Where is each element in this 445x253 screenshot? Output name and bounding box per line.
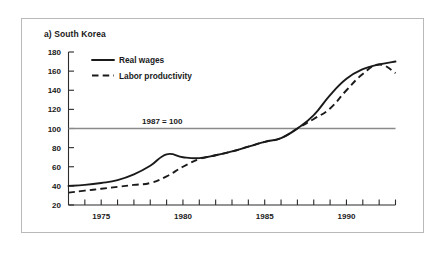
x-axis-tick-labels: 1975198019851990: [92, 212, 356, 221]
x-tick-label: 1985: [256, 212, 274, 221]
y-tick-label: 180: [48, 48, 62, 57]
reference-line-label: 1987 = 100: [142, 117, 183, 126]
y-tick-label: 80: [52, 144, 61, 153]
legend-label-real-wages: Real wages: [119, 55, 165, 65]
y-tick-label: 120: [48, 105, 62, 114]
chart-canvas: 18016014012010080604020 1975198019851990…: [0, 0, 445, 253]
x-tick-label: 1990: [338, 212, 356, 221]
y-axis-tick-labels: 18016014012010080604020: [48, 48, 62, 210]
legend: Real wages Labor productivity: [92, 55, 192, 81]
y-tick-label: 160: [48, 67, 62, 76]
y-tick-label: 140: [48, 86, 62, 95]
y-tick-label: 40: [52, 182, 61, 191]
y-tick-label: 60: [52, 163, 61, 172]
y-tick-label: 20: [52, 201, 61, 210]
x-tick-label: 1980: [174, 212, 192, 221]
series-real-wages: [69, 62, 396, 186]
x-tick-label: 1975: [92, 212, 110, 221]
x-axis-tick-marks: [85, 200, 396, 206]
legend-label-labor-productivity: Labor productivity: [119, 71, 192, 81]
y-tick-label: 100: [48, 125, 62, 134]
